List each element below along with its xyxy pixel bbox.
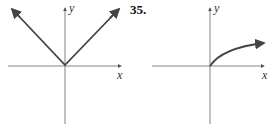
x-label-right: x (262, 68, 267, 83)
y-label-right: y (214, 1, 219, 16)
graphs-figure (0, 0, 276, 128)
right-graph (152, 8, 264, 124)
sqrt-curve (210, 43, 264, 66)
problem-number: 35. (130, 2, 146, 18)
left-graph (8, 8, 121, 124)
y-label-left: y (69, 1, 74, 16)
v-curve (13, 10, 118, 65)
x-label-left: x (117, 68, 122, 83)
